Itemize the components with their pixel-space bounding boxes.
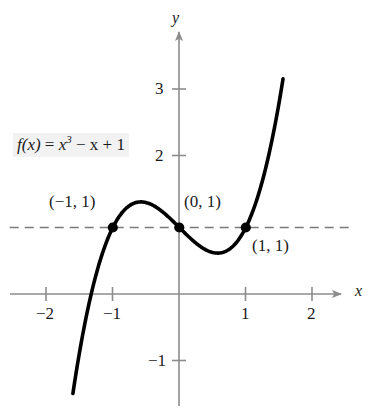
formula-remainder: − x + 1 [72,135,125,154]
point-label-1-1: (1, 1) [252,237,289,254]
y-tick-label-neg1: −1 [148,352,166,369]
formula-fx: f(x) [17,135,41,154]
x-tick-label-neg2: −2 [36,305,54,322]
point-marker-1-1 [241,222,251,232]
formula-equals: = [41,135,59,154]
point-marker-neg1-1 [108,222,118,232]
x-tick-label-2: 2 [307,305,316,322]
point-label-neg1-1: (−1, 1) [49,193,95,210]
function-formula-label: f(x) = x3 − x + 1 [13,133,129,157]
y-tick-label-2: 2 [155,147,164,164]
point-label-0-1: (0, 1) [184,193,221,210]
cubic-function-graph: f(x) = x3 − x + 1 x y −2 −1 1 2 3 2 −1 (… [0,0,383,416]
y-tick-label-3: 3 [155,80,164,97]
point-marker-0-1 [174,222,184,232]
x-tick-label-neg1: −1 [103,305,121,322]
y-axis-title: y [172,10,179,26]
x-axis-title: x [355,283,362,299]
x-tick-label-1: 1 [241,305,250,322]
